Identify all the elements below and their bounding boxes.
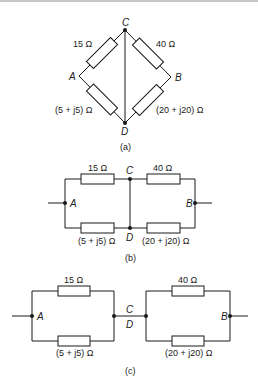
node-dot-d — [123, 121, 127, 125]
node-dot-c — [123, 28, 127, 32]
node-dot-c-cd-right — [144, 314, 148, 318]
node-label-b-a: A — [69, 198, 77, 209]
node-label-c: C — [122, 17, 130, 28]
node-label-c-b: B — [221, 311, 228, 322]
resistor-label-40: 40 Ω — [156, 39, 176, 49]
diagram-a: C A B D 15 Ω 40 Ω (5 + j5) Ω (20 + j20) … — [55, 17, 204, 152]
node-dot-b-b — [193, 201, 197, 205]
resistor-b-20j20 — [147, 223, 180, 233]
resistor-label-c-40: 40 Ω — [178, 275, 198, 285]
diagram-b: A B C D 15 Ω 40 Ω (5 + j5) Ω (20 + j20) … — [48, 163, 212, 263]
node-dot-c-cd-left — [112, 314, 116, 318]
resistor-c-20j20 — [172, 336, 204, 346]
resistor-b-5j5 — [81, 223, 114, 233]
resistor-c-40 — [172, 286, 204, 296]
node-label-a: A — [68, 71, 76, 82]
node-label-c-d: D — [126, 319, 133, 330]
caption-a: (a) — [120, 142, 131, 152]
node-label-c-c: C — [126, 304, 134, 315]
caption-b: (b) — [125, 253, 136, 263]
circuit-figure: C A B D 15 Ω 40 Ω (5 + j5) Ω (20 + j20) … — [0, 0, 258, 392]
node-dot-b-a — [63, 201, 67, 205]
node-dot-b-c — [128, 177, 132, 181]
resistor-b-15 — [81, 174, 114, 184]
node-dot-b-d — [128, 226, 132, 230]
node-dot-c-b — [228, 314, 232, 318]
resistor-label-b-15: 15 Ω — [88, 163, 108, 173]
resistor-label-c-20j20: (20 + j20) Ω — [165, 348, 213, 358]
resistor-label-b-40: 40 Ω — [153, 163, 173, 173]
resistor-label-b-20j20: (20 + j20) Ω — [142, 236, 190, 246]
node-label-b-d: D — [126, 232, 133, 243]
node-label-d: D — [121, 126, 128, 137]
resistor-label-c-5j5: (5 + j5) Ω — [56, 348, 94, 358]
node-label-c-a: A — [36, 311, 44, 322]
diagram-c: A B C D 15 Ω 40 Ω (5 + j5) Ω (20 + j20) … — [12, 275, 248, 376]
resistor-c-5j5 — [58, 336, 90, 346]
node-label-b-c: C — [126, 165, 134, 176]
resistor-label-15: 15 Ω — [73, 39, 93, 49]
caption-c: (c) — [125, 366, 136, 376]
node-dot-c-a — [30, 314, 34, 318]
resistor-b-40 — [147, 174, 180, 184]
resistor-c-15 — [58, 286, 90, 296]
resistor-label-5j5: (5 + j5) Ω — [55, 105, 93, 115]
resistor-label-b-5j5: (5 + j5) Ω — [78, 236, 116, 246]
resistor-label-c-15: 15 Ω — [64, 275, 84, 285]
node-label-b-b: B — [186, 198, 193, 209]
resistor-label-20j20: (20 + j20) Ω — [156, 105, 204, 115]
node-label-b: B — [175, 72, 182, 83]
